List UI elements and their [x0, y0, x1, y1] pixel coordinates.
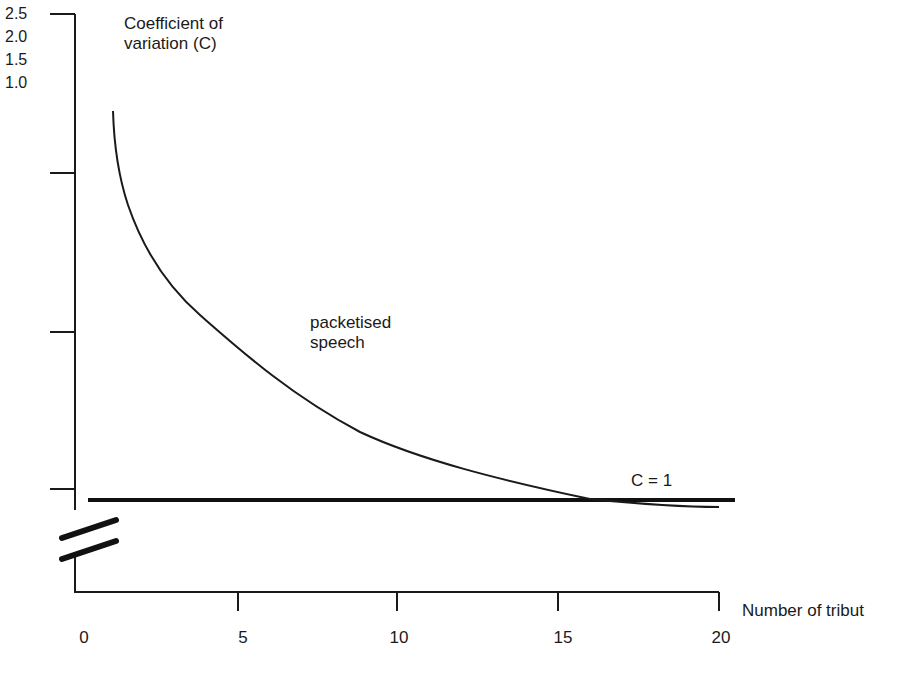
- x-axis-title: Number of tribut: [742, 601, 864, 621]
- x-tick-label: 5: [238, 628, 247, 648]
- reference-line-label: C = 1: [631, 471, 672, 491]
- x-tick-label: 10: [390, 628, 409, 648]
- chart-canvas: [0, 0, 904, 682]
- y-axis: [50, 14, 75, 593]
- series-label-line1: packetised: [310, 313, 391, 333]
- packetised-speech-curve: [113, 111, 719, 507]
- series-label-line2: speech: [310, 333, 365, 353]
- y-axis-title-line2: variation (C): [124, 34, 217, 54]
- y-axis-title-line1: Coefficient of: [124, 14, 223, 34]
- x-tick-label: 15: [554, 628, 573, 648]
- x-tick-label: 20: [712, 628, 731, 648]
- y-tick-label: 2.5: [5, 5, 27, 23]
- y-tick-label: 1.0: [5, 74, 27, 92]
- axis-break-icon: [62, 520, 116, 559]
- y-tick-label: 1.5: [5, 51, 27, 69]
- y-tick-label: 2.0: [5, 28, 27, 46]
- x-tick-label: 0: [79, 628, 88, 648]
- x-axis: [75, 592, 719, 611]
